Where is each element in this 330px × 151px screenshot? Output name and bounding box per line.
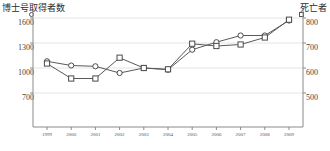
- data-point-marker-circle: [190, 47, 195, 52]
- chart-container: 博士号取得者数 死亡者 1600 1300 1000 700 800 700 6…: [0, 0, 330, 151]
- data-point-marker-square: [44, 61, 49, 66]
- data-point-marker-square: [238, 42, 243, 47]
- data-point-marker-circle: [117, 70, 122, 75]
- data-point-marker-square: [286, 17, 291, 22]
- data-point-marker-square: [117, 55, 122, 60]
- data-point-marker-square: [262, 35, 267, 40]
- data-point-marker-square: [165, 67, 170, 72]
- data-point-marker-circle: [93, 64, 98, 69]
- data-point-marker-circle: [238, 33, 243, 38]
- data-point-marker-square: [190, 41, 195, 46]
- data-point-marker-square: [214, 43, 219, 48]
- data-point-marker-square: [141, 65, 146, 70]
- data-point-marker-circle: [69, 63, 74, 68]
- data-point-marker-square: [93, 76, 98, 81]
- series-line-circle: [47, 21, 289, 74]
- data-point-marker-square: [69, 76, 74, 81]
- plot-area: [0, 0, 330, 151]
